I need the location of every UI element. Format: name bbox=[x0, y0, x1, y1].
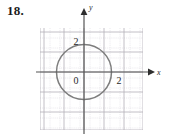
x-axis-label: x bbox=[156, 68, 161, 77]
origin-tick-label-0: 0 bbox=[74, 75, 79, 86]
y-tick-label-2: 2 bbox=[74, 36, 79, 47]
figure-root: 18. bbox=[0, 0, 172, 139]
y-axis bbox=[81, 8, 88, 134]
x-axis bbox=[36, 68, 155, 75]
y-axis-label: y bbox=[88, 3, 93, 12]
grid-minor bbox=[40, 28, 143, 130]
coordinate-graph: y x 2 0 2 bbox=[0, 0, 172, 139]
grid-major bbox=[40, 28, 143, 130]
x-tick-label-2: 2 bbox=[117, 75, 122, 86]
